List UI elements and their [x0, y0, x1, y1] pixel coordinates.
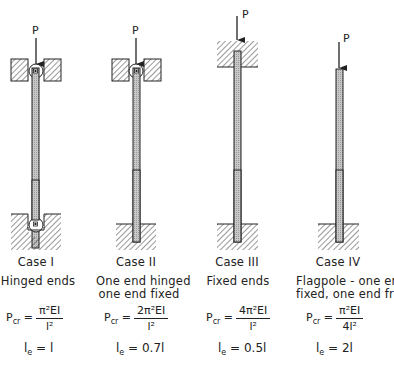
- case-3-load-label: P: [242, 8, 249, 21]
- le-eq: =: [328, 341, 338, 355]
- case-3-critical-load-formula: Pcr = 4π²EIl²: [206, 304, 270, 334]
- case-4-title: Case IV: [306, 256, 370, 269]
- case-1-top-left-block: [11, 59, 28, 81]
- case-2-top-right-block: [144, 59, 161, 81]
- case-3-figure: [217, 16, 258, 250]
- formula-lhs-sub: cr: [111, 318, 119, 327]
- formula-denominator: l²: [147, 319, 154, 334]
- formula-eq: =: [122, 311, 131, 324]
- le-sub: e: [319, 348, 324, 357]
- formula-numerator: π²EI: [336, 304, 363, 319]
- formula-lhs-sub: cr: [13, 318, 21, 327]
- case-2-top-left-block: [112, 59, 129, 81]
- case-4-effective-length: le = 2l: [316, 341, 353, 357]
- case-3-title: Case III: [205, 256, 269, 269]
- formula-numerator: 2π²EI: [134, 304, 168, 319]
- case-4-load-label: P: [343, 32, 350, 45]
- le-eq: =: [128, 341, 138, 355]
- formula-lhs-sub: cr: [313, 318, 321, 327]
- case-2-title: Case II: [104, 256, 168, 269]
- formula-denominator: l²: [249, 319, 256, 334]
- case-1-effective-length: le = l: [24, 341, 53, 357]
- case-1-figure: [11, 38, 61, 250]
- case-1-title: Case I: [4, 256, 68, 269]
- formula-eq: =: [24, 311, 33, 324]
- case-3-description: Fixed ends: [200, 275, 276, 288]
- le-value: l: [50, 341, 53, 355]
- le-sub: e: [27, 348, 32, 357]
- le-value: 0.7l: [142, 341, 164, 355]
- le-eq: =: [230, 341, 240, 355]
- le-eq: =: [36, 341, 46, 355]
- formula-numerator: π²EI: [36, 304, 63, 319]
- case-4-critical-load-formula: Pcr = π²EI4l²: [306, 304, 363, 334]
- case-4-figure: [318, 42, 359, 250]
- case-2-description-line2: one end fixed: [96, 288, 182, 301]
- case-2-critical-load-formula: Pcr = 2π²EIl²: [104, 304, 168, 334]
- le-value: 0.5l: [244, 341, 266, 355]
- case-2-load-label: P: [132, 24, 139, 37]
- formula-denominator: 4l²: [342, 319, 356, 334]
- formula-lhs: P: [6, 311, 13, 324]
- case-2-effective-length: le = 0.7l: [116, 341, 164, 357]
- formula-lhs: P: [104, 311, 111, 324]
- formula-numerator: 4π²EI: [236, 304, 270, 319]
- le-sub: e: [119, 348, 124, 357]
- case-1-critical-load-formula: Pcr = π²EIl²: [6, 304, 63, 334]
- le-value: 2l: [342, 341, 353, 355]
- formula-lhs: P: [206, 311, 213, 324]
- formula-lhs-sub: cr: [213, 318, 221, 327]
- case-1-top-right-block: [44, 59, 61, 81]
- formula-denominator: l²: [46, 319, 53, 334]
- le-sub: e: [221, 348, 226, 357]
- case-1-load-label: P: [32, 24, 39, 37]
- formula-eq: =: [224, 311, 233, 324]
- case-1-description: Hinged ends: [0, 275, 76, 288]
- case-4-description-line2: fixed, one end free: [296, 288, 394, 301]
- formula-eq: =: [324, 311, 333, 324]
- case-2-figure: [112, 38, 161, 250]
- formula-lhs: P: [306, 311, 313, 324]
- case-3-effective-length: le = 0.5l: [218, 341, 266, 357]
